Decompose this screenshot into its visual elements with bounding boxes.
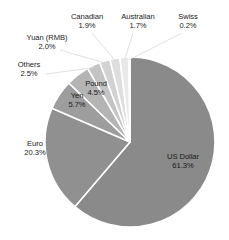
slice-label-australian-value: 1.7% xyxy=(112,21,164,30)
slice-label-euro-value: 20.3% xyxy=(12,148,58,157)
slice-label-pound-name: Pound xyxy=(78,79,114,88)
pie-slice-swiss xyxy=(129,57,130,142)
slice-label-euro-name: Euro xyxy=(12,139,58,148)
pie-chart-figure: Canadian 1.9% Australian 1.7% Swiss 0.2%… xyxy=(0,0,229,240)
slice-label-australian-name: Australian xyxy=(112,12,164,21)
pie-slices xyxy=(45,57,215,227)
slice-label-australian: Australian 1.7% xyxy=(112,12,164,31)
slice-label-yuan: Yuan (RMB) 2.0% xyxy=(9,33,85,52)
slice-label-others: Others 2.5% xyxy=(7,60,51,79)
slice-label-canadian: Canadian 1.9% xyxy=(63,12,111,31)
slice-label-canadian-name: Canadian xyxy=(63,12,111,21)
slice-label-us-dollar-name: US Dollar xyxy=(155,152,211,161)
slice-label-others-value: 2.5% xyxy=(7,69,51,78)
slice-label-us-dollar: US Dollar 61.3% xyxy=(155,152,211,171)
slice-label-us-dollar-value: 61.3% xyxy=(155,161,211,170)
slice-label-swiss: Swiss 0.2% xyxy=(168,12,208,31)
slice-label-swiss-name: Swiss xyxy=(168,12,208,21)
slice-label-yuan-name: Yuan (RMB) xyxy=(9,33,85,42)
leader-line-canadian xyxy=(92,33,115,61)
slice-label-others-name: Others xyxy=(7,60,51,69)
slice-label-swiss-value: 0.2% xyxy=(168,21,208,30)
slice-label-yen: Yen 5.7% xyxy=(62,91,92,110)
slice-label-yen-value: 5.7% xyxy=(62,100,92,109)
slice-label-yuan-value: 2.0% xyxy=(9,42,85,51)
slice-label-euro: Euro 20.3% xyxy=(12,139,58,158)
leader-line-swiss xyxy=(129,33,182,60)
slice-label-yen-name: Yen xyxy=(62,91,92,100)
slice-label-canadian-value: 1.9% xyxy=(63,21,111,30)
leader-line-australian xyxy=(125,33,133,60)
leader-line-yuan-rmb xyxy=(60,50,106,63)
